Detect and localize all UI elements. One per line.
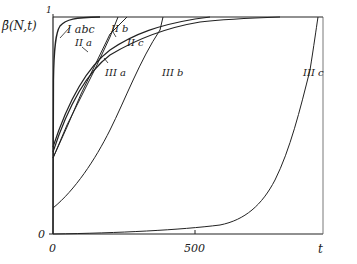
label-IIc: II c bbox=[127, 38, 144, 48]
label-IIIa: III a bbox=[105, 68, 126, 78]
y-tick-zero: 0 bbox=[38, 229, 45, 240]
x-tick-zero: 0 bbox=[49, 243, 56, 254]
label-IIb: II b bbox=[111, 24, 128, 34]
label-IIIc: III c bbox=[303, 68, 324, 78]
curve-IIIc bbox=[53, 17, 318, 234]
label-IIa: II a bbox=[75, 38, 92, 48]
x-axis-label: t bbox=[318, 243, 323, 255]
chart-canvas bbox=[0, 0, 357, 264]
x-tick-500: 500 bbox=[184, 243, 205, 254]
y-axis-label: β̄(N,t) bbox=[2, 20, 37, 32]
label-IIIb: III b bbox=[162, 68, 183, 78]
y-tick-one: 1 bbox=[46, 6, 52, 15]
label-Iabc: I abc bbox=[67, 24, 95, 35]
curve-IIIb bbox=[53, 17, 163, 208]
